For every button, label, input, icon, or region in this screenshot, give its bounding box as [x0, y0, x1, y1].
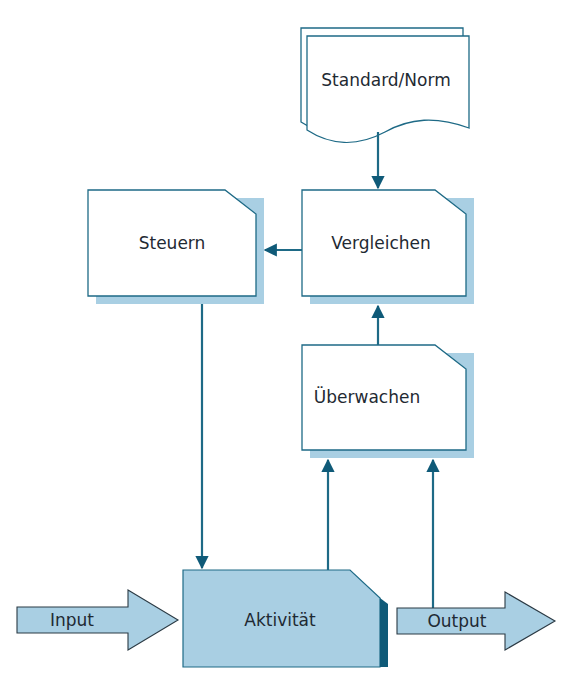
input-arrow: Input	[17, 590, 178, 650]
standard-norm-label: Standard/Norm	[321, 70, 450, 90]
control-loop-diagram: Standard/Norm Steuern Vergleichen Überwa…	[0, 0, 581, 687]
input-label: Input	[50, 610, 94, 630]
standard-norm-document: Standard/Norm	[301, 28, 469, 142]
aktivitaet-box: Aktivität	[183, 570, 388, 667]
vergleichen-box: Vergleichen	[302, 190, 474, 304]
ueberwachen-box: Überwachen	[302, 345, 474, 458]
steuern-label: Steuern	[139, 233, 206, 253]
ueberwachen-label: Überwachen	[314, 386, 420, 407]
vergleichen-label: Vergleichen	[331, 233, 431, 253]
steuern-box: Steuern	[88, 190, 264, 304]
output-label: Output	[427, 611, 486, 631]
aktivitaet-label: Aktivität	[244, 610, 316, 630]
output-arrow: Output	[397, 592, 555, 650]
aktivitaet-edge	[380, 598, 388, 667]
